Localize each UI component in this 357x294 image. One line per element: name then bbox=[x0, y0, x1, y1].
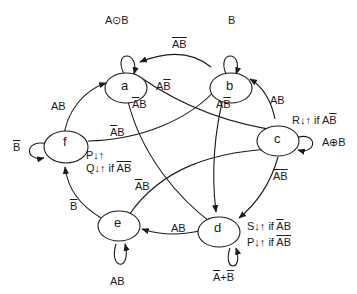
node-f-output-q: Q↓↑ if AB bbox=[86, 162, 131, 174]
node-d-label: d bbox=[214, 220, 221, 235]
node-c-label: c bbox=[274, 131, 281, 146]
loop-b bbox=[224, 56, 238, 74]
edge-e-c-label: AB bbox=[135, 180, 150, 192]
edge-c-b-label: AB bbox=[270, 94, 285, 106]
edge-f-b-label: AB bbox=[110, 126, 125, 138]
edge-c-d-label: AB bbox=[273, 170, 288, 182]
node-b-label: b bbox=[226, 78, 233, 93]
loop-c-label: A⊕B bbox=[322, 136, 346, 148]
loop-a-label: A⊙B bbox=[105, 14, 129, 26]
node-e-label: e bbox=[114, 215, 121, 230]
loop-d-label: A+B bbox=[213, 271, 234, 283]
edge-b-d-label: AB bbox=[216, 98, 231, 110]
node-f-label: f bbox=[63, 134, 67, 149]
edge-d-e-label: AB bbox=[171, 222, 186, 234]
loop-d bbox=[228, 248, 238, 266]
node-d-output-s: S↓↑ if AB bbox=[247, 220, 291, 232]
node-c-output: R↓↑ if AB bbox=[292, 114, 337, 126]
loop-f-label: B bbox=[13, 141, 20, 153]
loop-e-label: AB bbox=[110, 275, 125, 287]
edge-a-d bbox=[127, 97, 213, 224]
node-f-output-p: P↓↑ bbox=[86, 149, 104, 161]
loop-e bbox=[114, 244, 126, 264]
edge-b-a bbox=[140, 54, 211, 67]
edge-a-d-label: AB bbox=[132, 98, 147, 110]
loop-a bbox=[121, 56, 135, 74]
node-a-label: a bbox=[121, 78, 128, 93]
edge-e-f-label: B bbox=[70, 200, 77, 212]
state-diagram: a b c d e f A⊙B B A⊕B A+B AB B AB AB AB … bbox=[0, 0, 357, 294]
edge-f-a-label: AB bbox=[51, 100, 66, 112]
edge-b-a-label: AB bbox=[172, 38, 187, 50]
node-d-output-p: P↓↑ if AB bbox=[247, 236, 291, 248]
edge-a-c-label: AB bbox=[156, 80, 171, 92]
edge-c-d bbox=[239, 157, 278, 218]
loop-b-label: B bbox=[228, 14, 235, 26]
